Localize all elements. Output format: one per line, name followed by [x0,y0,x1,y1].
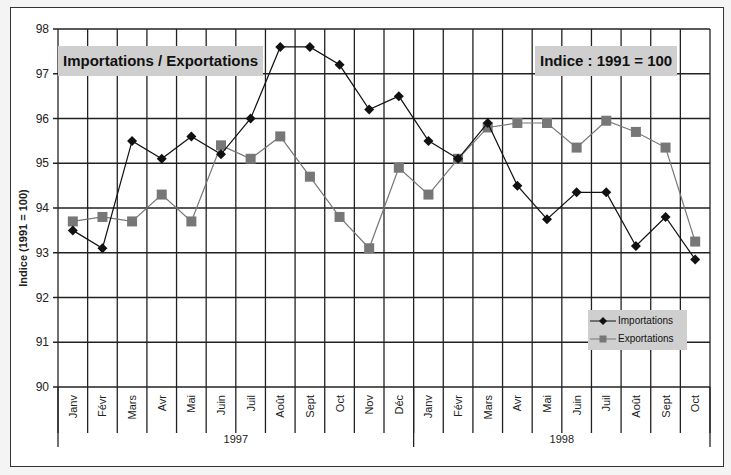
y-tick-label: 96 [36,112,50,126]
y-tick-label: 93 [36,246,50,260]
y-tick-label: 90 [36,380,50,394]
legend-label: Importations [618,312,673,330]
index-label: Indice : 1991 = 100 [535,46,677,76]
data-point [186,216,196,226]
data-point [364,105,374,115]
x-tick-label: Févr [452,395,464,417]
x-tick-label: Août [274,395,286,418]
y-axis-label: Indice (1991 = 100) [17,189,29,287]
data-point [512,118,522,128]
year-label: 1997 [224,433,248,445]
x-tick-label: Sept [304,395,316,418]
data-point [601,187,611,197]
x-tick-label: Avr [156,395,168,412]
data-point [157,154,167,164]
x-tick-label: Févr [96,395,108,417]
data-point [364,243,374,253]
y-tick-label: 95 [36,156,50,170]
data-point [661,143,671,153]
data-point [68,225,78,235]
data-point [542,118,552,128]
square-marker-icon [590,330,616,348]
chart-title: Importations / Exportations [58,46,263,76]
data-point [157,190,167,200]
x-tick-label: Sept [660,395,672,418]
x-tick-label: Oct [334,395,346,412]
legend-label: Exportations [618,330,674,348]
data-point [601,116,611,126]
data-point [631,127,641,137]
x-tick-label: Juil [245,395,257,412]
y-tick-label: 91 [36,335,50,349]
y-tick-label: 97 [36,67,50,81]
x-tick-label: Mars [482,395,494,420]
data-point [246,154,256,164]
x-tick-label: Mai [541,395,553,413]
data-point [305,172,315,182]
data-point [572,143,582,153]
year-label: 1998 [550,433,574,445]
x-tick-label: Juin [571,395,583,415]
y-tick-label: 98 [36,22,50,36]
data-point [335,212,345,222]
data-point [275,131,285,141]
x-tick-label: Janv [67,395,79,419]
data-point [394,163,404,173]
x-tick-label: Janv [422,395,434,419]
x-tick-label: Avr [511,395,523,412]
data-point [97,212,107,222]
data-point [305,42,315,52]
data-point [275,42,285,52]
data-point [127,136,137,146]
data-point [127,216,137,226]
x-tick-label: Mars [126,395,138,420]
data-point [394,91,404,101]
data-point [97,243,107,253]
x-tick-label: Déc [393,395,405,415]
data-point [216,140,226,150]
data-point [68,216,78,226]
data-point [690,254,700,264]
x-tick-label: Mai [185,395,197,413]
y-tick-label: 92 [36,291,50,305]
legend: Importations Exportations [588,310,687,350]
data-point [423,190,433,200]
legend-item-importations: Importations [588,312,687,330]
x-tick-label: Juil [600,395,612,412]
data-point [186,131,196,141]
data-point [423,136,433,146]
data-point [690,237,700,247]
x-tick-label: Nov [363,395,375,415]
x-tick-label: Août [630,395,642,418]
diamond-marker-icon [590,312,616,330]
y-tick-label: 94 [36,201,50,215]
data-point [335,60,345,70]
x-tick-label: Oct [689,395,701,412]
x-tick-label: Juin [215,395,227,415]
legend-item-exportations: Exportations [588,330,687,348]
